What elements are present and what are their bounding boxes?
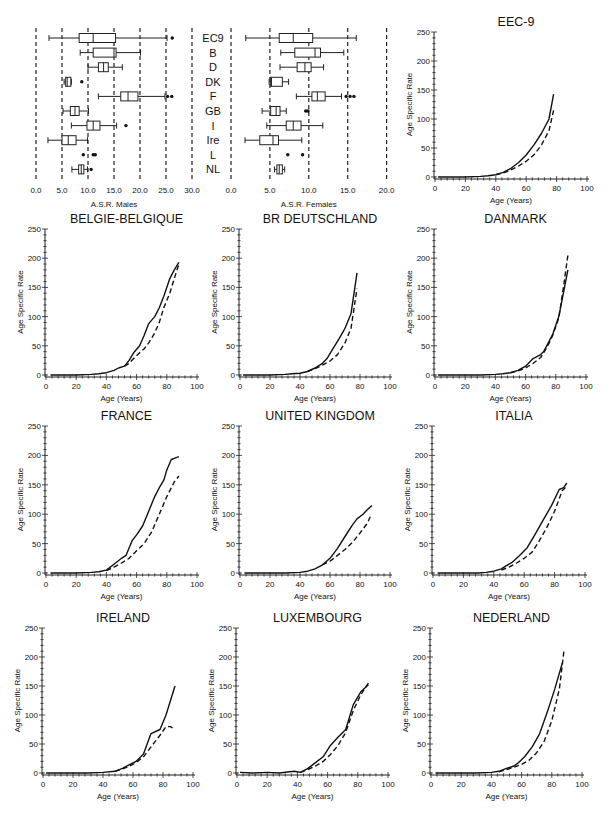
y-axis-title: Age Specific Rate	[210, 467, 219, 531]
x-tick-label: 10.0	[301, 186, 317, 195]
category-label: Ire	[207, 134, 220, 146]
x-axis-title: Age (Years)	[486, 792, 528, 801]
x-tick-label: 80	[550, 580, 559, 589]
x-tick-label: 20	[69, 780, 78, 789]
series-dashed	[323, 516, 371, 565]
y-tick-label: 100	[417, 313, 431, 322]
series-dashed	[501, 486, 566, 570]
y-tick-label: 150	[415, 481, 429, 490]
panel-title: BR DEUTSCHLAND	[263, 212, 378, 226]
panel-title: IRELAND	[96, 611, 150, 625]
x-axis-title: A.S.R. Females	[281, 200, 337, 209]
line-chart-eec9: EEC-9020406080100050100150200250Age (Yea…	[405, 15, 594, 205]
x-tick-label: 60	[522, 184, 531, 193]
outlier-point	[89, 168, 92, 171]
x-axis-title: Age (Years)	[294, 592, 336, 601]
y-tick-label: 200	[222, 254, 236, 263]
y-tick-label: 50	[29, 740, 38, 749]
x-tick-label: 60	[521, 382, 530, 391]
y-tick-label: 0	[37, 569, 42, 578]
box-gb	[262, 107, 310, 116]
x-tick-label: 100	[575, 780, 589, 789]
y-tick-label: 150	[28, 283, 42, 292]
x-tick-label: 100	[190, 382, 204, 391]
y-tick-label: 200	[415, 451, 429, 460]
y-tick-label: 50	[421, 144, 430, 153]
category-label: NL	[206, 163, 220, 175]
box-l	[286, 153, 304, 156]
x-tick-label: 20.0	[379, 186, 395, 195]
box-nl	[72, 165, 93, 174]
box-gb	[63, 107, 88, 116]
x-tick-label: 100	[381, 780, 395, 789]
y-tick-label: 200	[417, 254, 431, 263]
y-tick-label: 100	[222, 313, 236, 322]
outlier-point	[306, 109, 309, 112]
category-label: L	[210, 149, 216, 161]
x-tick-label: 60	[129, 780, 138, 789]
outlier-point	[352, 95, 355, 98]
outlier-point	[170, 95, 173, 98]
x-tick-label: 60	[132, 580, 141, 589]
box-d	[280, 63, 324, 72]
y-tick-label: 150	[417, 283, 431, 292]
box-b	[281, 48, 344, 57]
series-solid	[438, 270, 568, 375]
x-tick-label: 40	[296, 580, 305, 589]
y-tick-label: 250	[222, 422, 236, 431]
category-label: I	[211, 120, 214, 132]
x-axis-title: Age (Years)	[294, 394, 336, 403]
series-solid	[436, 663, 563, 773]
boxplot-females: 0.05.010.015.020.0A.S.R. Females	[225, 28, 394, 209]
y-tick-label: 200	[413, 653, 427, 662]
y-axis-title: Age Specific Rate	[403, 467, 412, 531]
box-dk	[64, 77, 83, 86]
y-axis-title: Age Specific Rate	[405, 270, 414, 334]
y-tick-label: 150	[222, 283, 236, 292]
y-tick-label: 250	[417, 225, 431, 234]
y-tick-label: 0	[34, 769, 39, 778]
x-tick-label: 100	[383, 382, 397, 391]
y-tick-label: 100	[28, 510, 42, 519]
x-tick-label: 0	[44, 580, 49, 589]
x-tick-label: 20	[266, 580, 275, 589]
figure: 0.05.010.015.020.025.030.0A.S.R. Males E…	[0, 0, 615, 825]
y-tick-label: 200	[28, 254, 42, 263]
x-axis-title: Age (Years)	[101, 592, 143, 601]
y-tick-label: 0	[37, 371, 42, 380]
y-tick-label: 200	[25, 653, 39, 662]
line-chart-br-deutschland: BR DEUTSCHLAND02040608010005010015020025…	[210, 212, 397, 403]
box-i	[71, 121, 127, 130]
y-tick-label: 250	[28, 225, 42, 234]
x-tick-label: 80	[356, 580, 365, 589]
panel-title: FRANCE	[101, 409, 152, 423]
x-tick-label: 60	[323, 780, 332, 789]
x-tick-label: 40	[491, 382, 500, 391]
x-tick-label: 10.0	[80, 186, 96, 195]
outlier-point	[124, 124, 127, 127]
y-axis-title: Age Specific Rate	[13, 668, 22, 732]
outlier-point	[171, 36, 174, 39]
x-axis-title: Age (Years)	[292, 792, 334, 801]
x-tick-label: 80	[552, 184, 561, 193]
x-tick-label: 20	[263, 780, 272, 789]
y-tick-label: 100	[219, 711, 233, 720]
y-tick-label: 50	[417, 740, 426, 749]
y-tick-label: 200	[222, 451, 236, 460]
series-solid	[438, 483, 567, 573]
x-axis-title: Age (Years)	[490, 394, 532, 403]
x-tick-label: 20	[266, 382, 275, 391]
outlier-point	[166, 95, 169, 98]
y-tick-label: 50	[223, 740, 232, 749]
category-label: DK	[205, 76, 221, 88]
x-tick-label: 40	[491, 184, 500, 193]
outlier-point	[82, 153, 85, 156]
series-solid	[438, 94, 554, 177]
y-tick-label: 200	[28, 451, 42, 460]
y-tick-label: 250	[413, 624, 427, 633]
y-tick-label: 50	[32, 540, 41, 549]
line-chart-belgie: BELGIE-BELGIQUE0204060801000501001502002…	[16, 212, 204, 403]
line-chart-ireland: IRELAND020406080100050100150200250Age (Y…	[13, 611, 200, 801]
y-tick-label: 150	[417, 86, 431, 95]
x-tick-label: 0	[433, 382, 438, 391]
